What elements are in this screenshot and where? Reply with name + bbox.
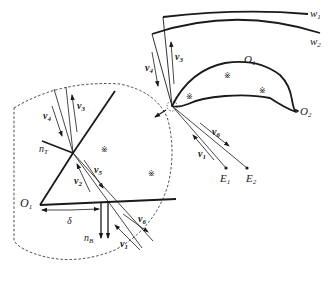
label-v5-zoom: v5 xyxy=(94,164,102,177)
point-e2 xyxy=(245,166,248,169)
label-e2: E2 xyxy=(245,172,257,186)
label-v3-zoom: v3 xyxy=(77,100,85,113)
label-v2-zoom: v2 xyxy=(74,175,82,188)
zoom-pointer-arrow xyxy=(155,110,166,117)
hatch-mark-5: ※ xyxy=(148,169,155,178)
curve-w1 xyxy=(163,12,308,17)
region-outline-o1-o2 xyxy=(172,62,298,112)
label-v1-main: v1 xyxy=(198,148,206,161)
label-w1: w1 xyxy=(310,7,321,21)
arrow-v3-main xyxy=(171,42,174,84)
line-to-e2 xyxy=(172,106,247,168)
leg-from-w1 xyxy=(163,17,172,106)
label-o2: O2 xyxy=(300,105,312,119)
label-o1-main: O1 xyxy=(244,53,255,67)
hatch-mark-2: ※ xyxy=(259,86,266,95)
label-v1-zoom: v1 xyxy=(120,238,128,251)
zoom-thin-3 xyxy=(73,153,153,241)
zoom-left-edge xyxy=(40,153,73,205)
label-nT: nT xyxy=(39,143,49,156)
label-v4-main: v4 xyxy=(145,62,153,75)
diagram-canvas: w1 w2 O1 O2 ※ ※ ※ ※ ※ v4 v3 v6 v1 E1 E2 … xyxy=(0,0,329,286)
label-v6-main: v6 xyxy=(212,126,220,139)
label-v6-zoom: v6 xyxy=(138,213,146,226)
hatch-mark-3: ※ xyxy=(186,92,193,101)
hatch-mark-4: ※ xyxy=(101,145,108,154)
label-w2: w2 xyxy=(310,35,321,49)
label-nB: nB xyxy=(84,232,94,245)
point-e1 xyxy=(224,166,227,169)
label-v3-main: v3 xyxy=(175,51,183,64)
label-delta: δ xyxy=(67,215,72,226)
hatch-mark-1: ※ xyxy=(224,71,231,80)
curve-w2 xyxy=(152,20,320,34)
label-v4-zoom: v4 xyxy=(43,110,51,123)
label-e1: E1 xyxy=(219,172,230,186)
delta-arrow-right xyxy=(70,209,99,210)
label-o1-zoom: O1 xyxy=(20,196,32,211)
